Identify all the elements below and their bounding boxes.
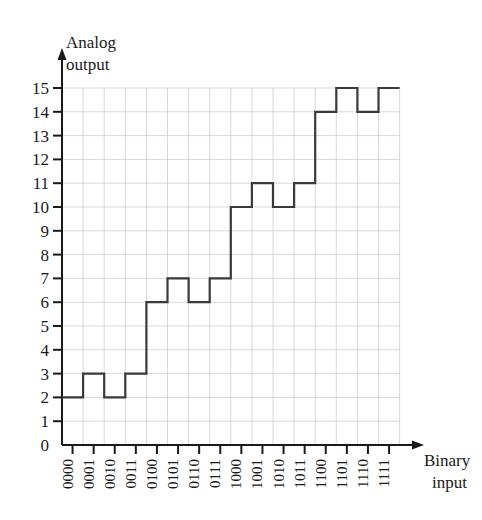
y-axis-tick-label: 13 bbox=[32, 127, 49, 146]
x-axis-tick-label: 1111 bbox=[376, 459, 392, 487]
x-axis-tick-label: 0110 bbox=[186, 459, 202, 488]
x-axis-tick-label: 0000 bbox=[60, 459, 76, 489]
y-axis-tick-label: 8 bbox=[41, 246, 50, 265]
y-axis-tick-label: 7 bbox=[41, 269, 50, 288]
x-axis-tick-label: 1100 bbox=[313, 459, 329, 488]
y-axis-tick-label: 10 bbox=[32, 198, 49, 217]
y-axis-tick-label: 14 bbox=[32, 103, 50, 122]
x-axis-tick-label: 0101 bbox=[165, 459, 181, 489]
chart-background bbox=[0, 0, 482, 520]
x-axis-title-line1: Binary bbox=[424, 451, 471, 470]
y-axis-tick-label: 12 bbox=[32, 150, 49, 169]
chart-page: 0123456789101112131415 00000001001000110… bbox=[0, 0, 482, 520]
x-axis-tick-label: 0100 bbox=[144, 459, 160, 489]
dac-staircase-chart: 0123456789101112131415 00000001001000110… bbox=[0, 0, 482, 520]
y-axis-tick-label: 6 bbox=[41, 293, 50, 312]
x-axis-tick-label: 1000 bbox=[228, 459, 244, 489]
y-axis-tick-label: 2 bbox=[41, 388, 50, 407]
y-axis-title-line1: Analog bbox=[66, 33, 117, 52]
x-axis-tick-label: 0011 bbox=[123, 459, 139, 488]
y-axis-tick-label: 0 bbox=[41, 436, 50, 455]
y-axis-tick-label: 5 bbox=[41, 317, 50, 336]
x-axis-tick-label: 1010 bbox=[271, 459, 287, 489]
x-axis-tick-label: 1011 bbox=[292, 459, 308, 488]
y-axis-tick-label: 4 bbox=[41, 341, 50, 360]
x-axis-tick-label: 0001 bbox=[81, 459, 97, 489]
x-axis-tick-label: 1001 bbox=[249, 459, 265, 489]
y-axis-tick-label: 3 bbox=[41, 365, 50, 384]
y-axis-tick-label: 15 bbox=[32, 79, 49, 98]
x-axis-tick-label: 0010 bbox=[102, 459, 118, 489]
y-axis-tick-label: 1 bbox=[41, 412, 50, 431]
y-axis-tick-label: 9 bbox=[41, 222, 50, 241]
x-axis-tick-label: 0111 bbox=[207, 459, 223, 488]
y-axis-title-line2: output bbox=[66, 55, 110, 74]
x-axis-title-line2: input bbox=[432, 473, 467, 492]
x-axis-tick-label: 1101 bbox=[334, 459, 350, 488]
y-axis-tick-label: 11 bbox=[33, 174, 49, 193]
x-axis-tick-label: 1110 bbox=[355, 459, 371, 488]
